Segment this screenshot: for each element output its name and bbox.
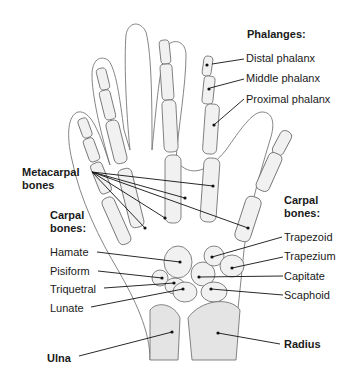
label-proximal-phalanx: Proximal phalanx xyxy=(246,93,330,105)
label-hamate: Hamate xyxy=(50,246,89,258)
label-trapezium: Trapezium xyxy=(284,250,336,262)
label-trapezoid: Trapezoid xyxy=(284,231,333,243)
label-scaphoid: Scaphoid xyxy=(284,289,330,301)
carpal-bones xyxy=(152,246,244,302)
label-distal-phalanx: Distal phalanx xyxy=(246,52,315,64)
middle-finger xyxy=(159,40,181,223)
label-lunate: Lunate xyxy=(50,302,84,314)
label-radius: Radius xyxy=(284,338,321,350)
label-ulna: Ulna xyxy=(47,352,71,364)
label-middle-phalanx: Middle phalanx xyxy=(246,72,320,84)
index-finger xyxy=(200,56,220,223)
forearm-bones xyxy=(150,302,240,360)
label-triquetral: Triquetral xyxy=(50,283,96,295)
carpal-right-heading-line1: Carpal xyxy=(284,194,318,206)
phalanges-heading: Phalanges: xyxy=(247,28,306,40)
carpal-left-heading-line2: bones: xyxy=(50,222,86,234)
metacarpal-heading-line2: bones xyxy=(22,179,54,191)
label-capitate: Capitate xyxy=(284,270,325,282)
carpal-right-heading-line2: bones: xyxy=(284,207,320,219)
hand-bones-diagram: Phalanges: Distal phalanx Middle phalanx… xyxy=(0,0,356,378)
carpal-left-heading-line1: Carpal xyxy=(50,209,84,221)
metacarpal-heading-line1: Metacarpal xyxy=(22,166,79,178)
label-pisiform: Pisiform xyxy=(50,265,90,277)
